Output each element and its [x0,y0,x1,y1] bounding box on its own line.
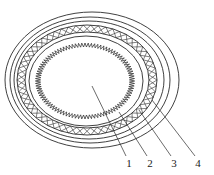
callout-leader-line-4 [152,100,195,156]
serrated-insulation-ring-fill [38,45,132,117]
callout-label-2: 2 [147,157,153,169]
callout-label-3: 3 [171,157,177,169]
callout-label-4: 4 [195,157,201,169]
concentric-layer-group [5,12,179,148]
callout-label-1: 1 [126,157,132,169]
cable-cross-section-figure: 1234 [0,0,214,175]
cable-cross-section-drawing: 1234 [0,0,214,175]
